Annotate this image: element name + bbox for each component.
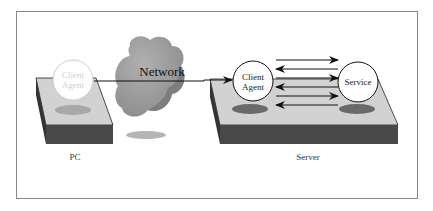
service-node: Service — [338, 62, 378, 102]
pc-client-agent: Client Agent — [53, 60, 93, 100]
pc-agent-label-line1: Client — [62, 70, 84, 80]
server-agent-shadow — [232, 104, 268, 114]
server-client-agent: Client Agent — [233, 61, 273, 101]
diagram-canvas: Client Agent Network Client Agent Servic… — [0, 0, 433, 211]
network-shadow — [126, 131, 166, 139]
server-platform-front — [220, 125, 398, 144]
server-agent-label-line1: Client — [242, 72, 264, 82]
pc-label: PC — [69, 152, 80, 162]
service-shadow — [339, 104, 375, 114]
network-label: Network — [139, 64, 185, 79]
pc-platform-front — [46, 125, 113, 144]
pc-agent-label-line2: Agent — [62, 80, 84, 90]
server-agent-label-line2: Agent — [242, 82, 264, 92]
pc-agent-shadow — [55, 105, 91, 115]
service-label: Service — [345, 77, 372, 87]
server-label: Server — [296, 152, 320, 162]
